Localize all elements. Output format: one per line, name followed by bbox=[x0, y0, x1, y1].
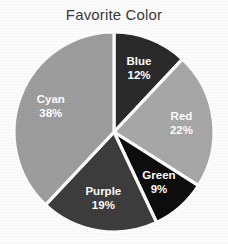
slice-label-value-cyan: 38% bbox=[39, 107, 62, 119]
slice-label-value-red: 22% bbox=[170, 124, 193, 136]
slice-label-name-red: Red bbox=[171, 110, 193, 122]
slice-label-value-purple: 19% bbox=[92, 199, 115, 211]
pie-chart-canvas: Blue12%Red22%Green9%Purple19%Cyan38% bbox=[0, 0, 228, 244]
slice-label-name-green: Green bbox=[142, 169, 175, 181]
slice-label-name-blue: Blue bbox=[127, 55, 152, 67]
slice-label-value-green: 9% bbox=[151, 183, 168, 195]
pie-chart-figure: Favorite Color Blue12%Red22%Green9%Purpl… bbox=[0, 0, 228, 244]
slice-label-value-blue: 12% bbox=[128, 69, 151, 81]
slice-label-name-cyan: Cyan bbox=[37, 93, 65, 105]
slice-label-name-purple: Purple bbox=[85, 185, 121, 197]
